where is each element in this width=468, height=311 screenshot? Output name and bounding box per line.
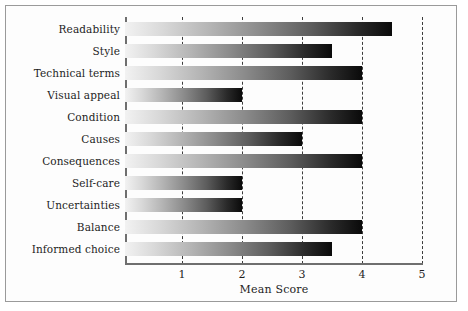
category-label: Technical terms — [2, 67, 120, 79]
category-label: Style — [2, 45, 120, 57]
category-label: Causes — [2, 133, 120, 145]
category-label: Uncertainties — [2, 199, 120, 211]
bar — [125, 22, 392, 36]
bar — [125, 132, 302, 146]
bar — [125, 66, 362, 80]
bar — [125, 176, 242, 190]
x-tick-label: 5 — [407, 268, 437, 281]
bar — [125, 110, 362, 124]
figure-container: ReadabilityStyleTechnical termsVisual ap… — [0, 0, 468, 311]
bar — [125, 220, 362, 234]
bar — [125, 88, 242, 102]
bar — [125, 44, 332, 58]
x-tick-label: 4 — [347, 268, 377, 281]
bar-row — [125, 66, 422, 80]
category-label: Self-care — [2, 177, 120, 189]
bar-row — [125, 154, 422, 168]
gridline-5 — [422, 17, 423, 264]
category-label: Informed choice — [2, 243, 120, 255]
category-label: Balance — [2, 221, 120, 233]
bar-row — [125, 198, 422, 212]
category-label: Visual appeal — [2, 89, 120, 101]
category-label: Condition — [2, 111, 120, 123]
bar — [125, 154, 362, 168]
bar-row — [125, 220, 422, 234]
bar-row — [125, 88, 422, 102]
x-tick-label: 3 — [287, 268, 317, 281]
plot-area — [125, 17, 422, 264]
category-axis-labels: ReadabilityStyleTechnical termsVisual ap… — [0, 0, 120, 311]
category-label: Readability — [2, 23, 120, 35]
bar-row — [125, 44, 422, 58]
bar-row — [125, 242, 422, 256]
bar — [125, 242, 332, 256]
x-tick-label: 1 — [167, 268, 197, 281]
x-tick-label: 2 — [227, 268, 257, 281]
bar-row — [125, 110, 422, 124]
bar-row — [125, 22, 422, 36]
category-label: Consequences — [2, 155, 120, 167]
bar-row — [125, 176, 422, 190]
bar-row — [125, 132, 422, 146]
x-axis-title: Mean Score — [125, 283, 423, 296]
bar — [125, 198, 242, 212]
